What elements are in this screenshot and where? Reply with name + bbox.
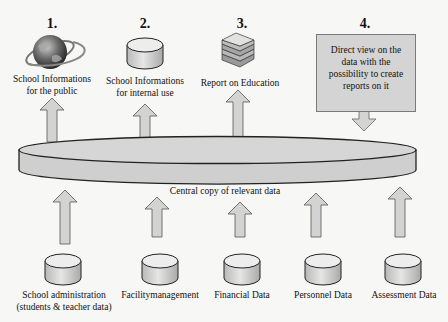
arrow-up-output-2 <box>133 104 157 140</box>
arrow-up-output-1 <box>40 98 64 142</box>
arrow-down-callout <box>352 111 376 131</box>
central-data-label: Central copy of relevant data <box>155 185 295 197</box>
database-icon-source-5 <box>385 254 421 285</box>
callout-direct-view: Direct view on the data with the possibi… <box>316 34 416 112</box>
central-data-disk <box>19 137 416 185</box>
output-number-2: 2. <box>130 16 160 32</box>
arrow-up-source-2 <box>145 197 169 237</box>
arrow-up-source-4 <box>304 193 328 237</box>
books-icon <box>222 33 254 67</box>
output-number-4: 4. <box>350 16 380 32</box>
source-label-4: Personnel Data <box>283 289 363 301</box>
output-label-1: School Informations for the public <box>0 73 104 97</box>
arrow-up-source-5 <box>388 187 412 237</box>
arrow-up-source-1 <box>53 190 77 244</box>
source-label-2: Facilitymanagement <box>112 289 208 301</box>
source-label-3: Financial Data <box>202 289 282 301</box>
arrow-up-source-3 <box>228 202 252 237</box>
arrow-up-output-3 <box>226 90 250 137</box>
output-label-3: Report on Education <box>190 77 290 89</box>
source-label-5: Assessment Data <box>360 289 448 301</box>
output-label-2: School Informations for internal use <box>95 75 195 99</box>
database-icon-source-1 <box>45 254 81 285</box>
database-icon <box>127 38 163 69</box>
database-icon-source-3 <box>224 254 260 285</box>
source-label-1: School administration (students & teache… <box>8 289 120 313</box>
output-number-3: 3. <box>227 16 257 32</box>
output-number-1: 1. <box>37 16 67 32</box>
globe-icon <box>23 35 85 70</box>
database-icon-source-4 <box>305 254 341 285</box>
database-icon-source-2 <box>142 254 178 285</box>
